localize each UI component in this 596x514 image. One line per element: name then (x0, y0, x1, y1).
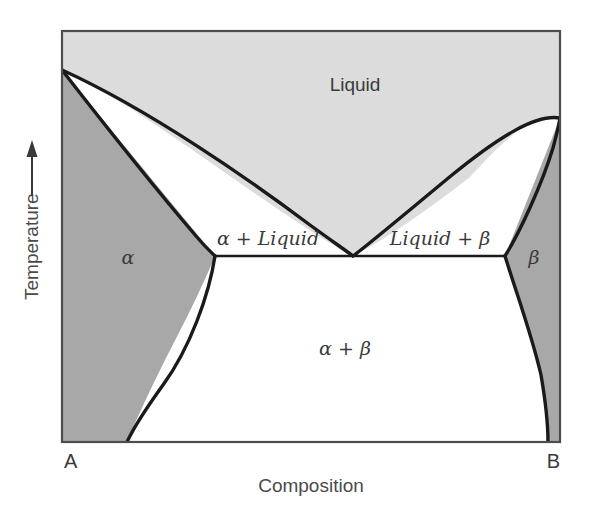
label-alpha-plus-liquid: α + Liquid (217, 227, 319, 249)
label-beta: β (528, 246, 540, 268)
x-axis-endpoint-a: A (64, 450, 78, 472)
phase-diagram-svg: Liquid α β α + Liquid Liquid + β α + β A… (0, 0, 596, 514)
y-axis-label: Temperature (21, 193, 42, 300)
phase-diagram-figure: Liquid α β α + Liquid Liquid + β α + β A… (0, 0, 596, 514)
label-alpha: α (122, 246, 135, 268)
x-axis-endpoint-b: B (547, 450, 560, 472)
y-axis-label-group: Temperature (21, 193, 42, 300)
label-liquid-plus-beta: Liquid + β (389, 227, 490, 249)
x-axis-label: Composition (258, 475, 364, 496)
label-liquid: Liquid (330, 74, 381, 95)
label-alpha-plus-beta: α + β (319, 337, 371, 359)
